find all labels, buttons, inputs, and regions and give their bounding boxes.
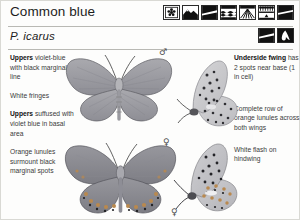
annotation-lead: Uppers [10,54,33,61]
grassland-icon[interactable] [258,28,275,43]
flight-icon[interactable] [277,28,294,43]
annotation-lead: Uppers [10,110,33,117]
hill-icon[interactable] [182,5,199,20]
annotation-text: Orange lunules surmount black marginal s… [10,148,55,174]
female-symbol: ♀ [171,207,178,217]
female-underside [173,137,247,219]
page-header: Common blue [1,1,299,27]
male-underside [175,55,245,133]
page-title: Common blue [10,4,95,19]
female-symbol: ♀ [163,137,170,147]
downland-icon[interactable] [277,5,294,20]
flower-icon[interactable] [163,5,180,20]
specimen-plate: ♂ [63,41,239,220]
grassland-icon[interactable] [201,5,218,20]
male-symbol: ♂ [159,47,167,57]
meadow-icon[interactable] [239,5,256,20]
wetland-icon[interactable] [220,5,237,20]
field-guide-page: Common blue [0,0,300,220]
status-icon-row [258,28,294,43]
hedgerow-icon[interactable] [258,5,275,20]
annotation-text: White fringes [10,92,49,99]
female-upperside [63,131,179,219]
habitat-icon-row [163,5,294,20]
scientific-name: P. icarus [10,30,55,42]
male-upperside [63,45,175,127]
